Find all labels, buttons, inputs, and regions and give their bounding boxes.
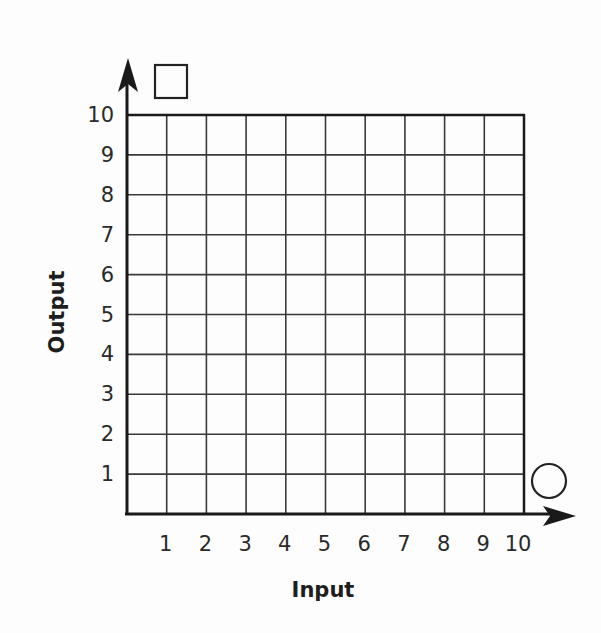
axes xyxy=(118,58,576,526)
y-tick-label: 5 xyxy=(101,303,114,327)
y-tick-label: 8 xyxy=(101,183,114,207)
x-tick-label: 6 xyxy=(358,532,371,556)
x-tick-label: 2 xyxy=(199,532,212,556)
y-axis-title: Output xyxy=(45,271,69,354)
x-tick-label: 5 xyxy=(318,532,331,556)
x-axis-title: Input xyxy=(292,578,355,602)
y-tick-label: 1 xyxy=(101,462,114,486)
x-tick-label: 1 xyxy=(159,532,172,556)
x-axis-answer-circle[interactable] xyxy=(532,464,566,498)
x-tick-labels: 12345678910 xyxy=(159,532,531,556)
x-axis-arrow-icon xyxy=(543,506,576,526)
x-tick-label: 7 xyxy=(397,532,410,556)
y-tick-labels: 12345678910 xyxy=(87,103,114,486)
x-tick-label: 3 xyxy=(238,532,251,556)
y-tick-label: 4 xyxy=(101,342,114,366)
y-tick-label: 7 xyxy=(101,223,114,247)
grid-lines xyxy=(127,115,524,514)
x-tick-label: 10 xyxy=(505,532,532,556)
y-tick-label: 3 xyxy=(101,382,114,406)
y-axis-answer-box[interactable] xyxy=(155,65,187,98)
coordinate-grid-chart: 12345678910 12345678910 Input Output xyxy=(0,0,601,633)
y-tick-label: 9 xyxy=(101,143,114,167)
y-tick-label: 6 xyxy=(101,263,114,287)
x-tick-label: 9 xyxy=(477,532,490,556)
x-tick-label: 8 xyxy=(437,532,450,556)
y-tick-label: 10 xyxy=(87,103,114,127)
x-tick-label: 4 xyxy=(278,532,291,556)
y-tick-label: 2 xyxy=(101,422,114,446)
